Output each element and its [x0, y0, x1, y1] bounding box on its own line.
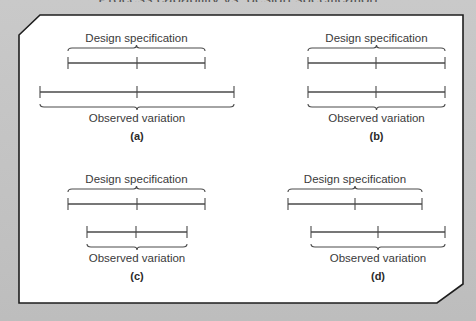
design-spec-label: Design specification [304, 173, 406, 185]
panel-letter-d: (d) [371, 270, 385, 282]
observed-variation-label: Observed variation [330, 252, 427, 264]
diagram-canvas [0, 0, 476, 321]
observed-variation-label: Observed variation [89, 112, 186, 124]
design-spec-label: Design specification [85, 32, 187, 44]
design-spec-label: Design specification [85, 173, 187, 185]
observed-variation-label: Observed variation [328, 112, 425, 124]
design-spec-label: Design specification [325, 32, 427, 44]
panel-letter-c: (c) [130, 270, 143, 282]
panel-letter-b: (b) [369, 130, 383, 142]
observed-variation-label: Observed variation [89, 252, 186, 264]
panel-letter-a: (a) [130, 130, 143, 142]
